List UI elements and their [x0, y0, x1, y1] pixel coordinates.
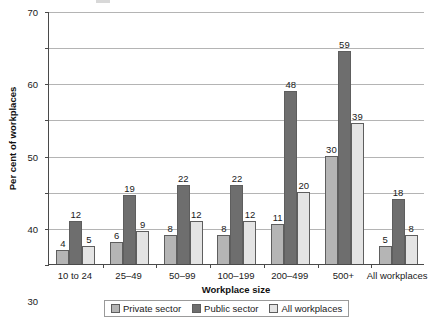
bar-slot: 9 [136, 12, 149, 264]
bar-slot: 19 [123, 12, 136, 264]
bar-value-label: 11 [273, 212, 283, 223]
y-axis-tick: 0 [45, 265, 49, 266]
y-axis-title: Per cent of workplaces [6, 12, 20, 265]
bar-value-label: 6 [114, 230, 119, 241]
bar-value-label: 22 [178, 173, 189, 184]
y-axis-tick-label: 60 [27, 79, 38, 90]
bar-group: 305939 [318, 12, 372, 264]
x-axis-tick-label: 10 to 24 [58, 270, 92, 281]
scan-artifact [96, 0, 110, 3]
bar-group: 114820 [264, 12, 318, 264]
bar-group: 6199 [103, 12, 157, 264]
legend-label: Private sector [123, 303, 181, 314]
legend-item: Public sector [192, 303, 258, 314]
bar-slot: 5 [379, 12, 392, 264]
x-axis-tick [318, 264, 319, 268]
bar-slot: 12 [243, 12, 256, 264]
bar: 30 [325, 156, 338, 264]
y-axis-tick-label: 30 [27, 296, 38, 307]
bar-value-label: 5 [382, 234, 387, 245]
plot-area: 010203040506070 412561998221282212114820… [48, 12, 424, 265]
x-axis-tick-label: 200–499 [271, 270, 308, 281]
bar: 22 [177, 185, 190, 265]
bar: 8 [164, 235, 177, 264]
bar-value-label: 48 [285, 79, 296, 90]
bar-slot: 22 [230, 12, 243, 264]
bar-groups: 4125619982212822121148203059395188 [49, 12, 424, 264]
y-axis-title-label: Per cent of workplaces [8, 87, 19, 190]
x-axis-tick-label: 50–99 [169, 270, 195, 281]
bar: 9 [136, 231, 149, 264]
y-axis-tick-label: 70 [27, 7, 38, 18]
bar-value-label: 12 [245, 209, 256, 220]
bar-slot: 6 [110, 12, 123, 264]
bar-value-label: 18 [393, 187, 404, 198]
x-axis-tick-label: 25–49 [115, 270, 141, 281]
bar-group: 5188 [371, 12, 425, 264]
bar-slot: 8 [164, 12, 177, 264]
legend-swatch [192, 304, 201, 313]
bar-value-label: 8 [221, 223, 226, 234]
legend-swatch [111, 304, 120, 313]
bar: 8 [405, 235, 418, 264]
bar-value-label: 19 [124, 183, 135, 194]
bar-slot: 11 [271, 12, 284, 264]
y-axis-tick-label: 40 [27, 223, 38, 234]
bar-group: 82212 [210, 12, 264, 264]
bar-group: 4125 [49, 12, 103, 264]
y-axis-tick-label: 50 [27, 151, 38, 162]
bar-slot: 8 [217, 12, 230, 264]
x-axis-tick [264, 264, 265, 268]
legend-label: All workplaces [281, 303, 342, 314]
bar-slot: 22 [177, 12, 190, 264]
x-axis-tick [371, 264, 372, 268]
x-axis-tick-label: 100–199 [218, 270, 255, 281]
bar-value-label: 20 [298, 180, 309, 191]
bar-group: 82212 [156, 12, 210, 264]
bar-value-label: 30 [326, 144, 337, 155]
legend-item: Private sector [111, 303, 181, 314]
bar: 4 [56, 250, 69, 264]
bar: 8 [217, 235, 230, 264]
x-axis-tick [103, 264, 104, 268]
bar: 18 [392, 199, 405, 264]
bar: 20 [297, 192, 310, 264]
bar: 11 [271, 224, 284, 264]
bar: 5 [82, 246, 95, 264]
bar-chart: Per cent of workplaces 010203040506070 4… [0, 0, 436, 322]
bar-slot: 12 [69, 12, 82, 264]
bar: 5 [379, 246, 392, 264]
bar: 12 [190, 221, 203, 264]
bar-slot: 30 [325, 12, 338, 264]
x-axis-tick-label: 500+ [333, 270, 354, 281]
bar: 12 [69, 221, 82, 264]
x-axis-title: Workplace size [48, 284, 424, 295]
bar: 19 [123, 195, 136, 264]
bar: 48 [284, 91, 297, 264]
bar-slot: 4 [56, 12, 69, 264]
bar-slot: 12 [190, 12, 203, 264]
legend-label: Public sector [204, 303, 258, 314]
bar-value-label: 22 [232, 173, 243, 184]
bar-value-label: 4 [60, 238, 65, 249]
bar: 6 [110, 242, 123, 264]
chart-legend: Private sectorPublic sectorAll workplace… [104, 300, 349, 317]
x-axis-tick [210, 264, 211, 268]
bar-value-label: 12 [71, 209, 82, 220]
bar-slot: 20 [297, 12, 310, 264]
bar: 39 [351, 123, 364, 264]
bar-slot: 39 [351, 12, 364, 264]
bar-value-label: 39 [352, 111, 363, 122]
bar-value-label: 12 [191, 209, 202, 220]
x-axis-tick [156, 264, 157, 268]
bar-slot: 59 [338, 12, 351, 264]
bar-value-label: 8 [168, 223, 173, 234]
x-axis-tick-label: All workplaces [367, 270, 428, 281]
legend-item: All workplaces [269, 303, 342, 314]
bar-slot: 18 [392, 12, 405, 264]
bar-slot: 8 [405, 12, 418, 264]
legend-swatch [269, 304, 278, 313]
bar: 59 [338, 51, 351, 264]
bar-value-label: 9 [140, 219, 145, 230]
bar-slot: 5 [82, 12, 95, 264]
